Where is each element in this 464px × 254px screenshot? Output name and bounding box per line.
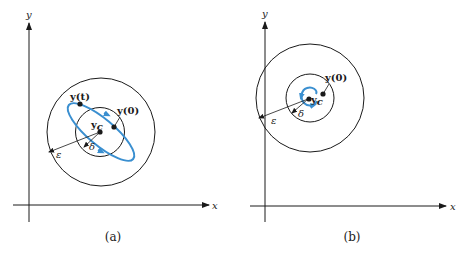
y-axis-label: y <box>25 9 32 20</box>
panel-a: y x y(t) y(0) yc δ ε (a) <box>13 9 218 244</box>
initial-point-label: y(0) <box>324 72 347 83</box>
panel-b: y x y(0) yc δ ε (b) <box>250 8 456 244</box>
x-axis-label: x <box>450 201 456 212</box>
current-point-label: y(t) <box>69 91 90 102</box>
initial-leader <box>323 84 329 94</box>
initial-leader <box>114 117 120 127</box>
stability-diagram: y x y(t) y(0) yc δ ε (a) y x <box>0 0 464 254</box>
epsilon-label: ε <box>271 115 276 126</box>
panel-caption: (b) <box>343 230 360 244</box>
panel-caption: (a) <box>105 230 122 244</box>
initial-point-label: y(0) <box>116 105 139 116</box>
orbit-arrow-icon <box>98 150 102 152</box>
orbit-arrow-icon <box>104 113 108 115</box>
epsilon-label: ε <box>56 149 61 160</box>
delta-label: δ <box>298 108 304 119</box>
y-axis-label: y <box>261 8 268 19</box>
delta-label: δ <box>89 141 95 152</box>
equilibrium-label: yc <box>90 119 103 132</box>
current-point <box>77 101 82 106</box>
x-axis-label: x <box>212 200 218 211</box>
spiral-arrow-icon <box>310 105 314 106</box>
spiral-arrow-icon <box>301 93 302 97</box>
